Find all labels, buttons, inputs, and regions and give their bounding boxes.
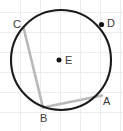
point-label-b: B: [40, 112, 48, 124]
circle-geometry-figure: CDABE: [0, 0, 123, 131]
point-label-d: D: [107, 17, 115, 29]
figure-canvas: CDABE: [0, 0, 123, 131]
point-label-c: C: [13, 18, 21, 30]
point-dot-e: [57, 58, 62, 63]
point-label-e: E: [65, 54, 73, 66]
point-dot-d: [99, 22, 104, 27]
point-label-a: A: [103, 95, 111, 107]
